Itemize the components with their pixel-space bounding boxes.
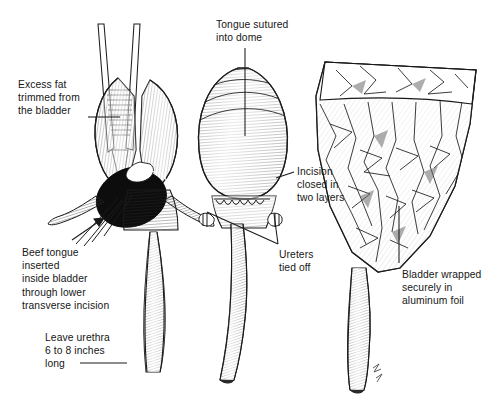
label-ureters-tied: Ureters tied off (279, 248, 339, 274)
label-excess-fat: Excess fat trimmed from the bladder (18, 78, 98, 118)
leader-beef-tongue-arrow (72, 218, 104, 240)
bladder-neck-panel-1 (123, 190, 178, 230)
urethra-panel-2 (214, 220, 250, 386)
bladder-neck-panel-2 (208, 192, 282, 232)
artist-signature (373, 364, 382, 382)
illustration-canvas: Excess fat trimmed from the bladder Beef… (0, 0, 501, 414)
ureter-tied-left (199, 213, 214, 227)
label-beef-tongue: Beef tongue inserted inside bladder thro… (22, 246, 147, 312)
label-bladder-wrapped: Bladder wrapped securely in aluminum foi… (402, 268, 501, 308)
label-incision-closed: Incision closed in two layers (297, 165, 363, 205)
label-leave-urethra: Leave urethra 6 to 8 inches long (45, 331, 135, 371)
urethra-panel-3 (344, 264, 374, 396)
bladder-dome-panel-2 (192, 60, 296, 208)
panel-3-artwork (310, 58, 485, 396)
panel-2-artwork (192, 60, 296, 386)
label-tongue-sutured: Tongue sutured into dome (216, 18, 321, 44)
